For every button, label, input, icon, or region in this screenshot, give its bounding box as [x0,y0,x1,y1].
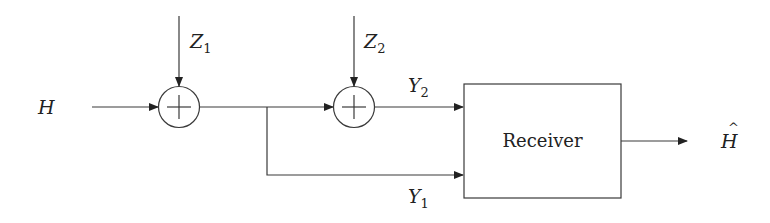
channel-diagram: H Z1 Z2 Y2 Y1 Receiver H ^ [0,0,770,223]
hat-accent: ^ [728,120,739,135]
y1-label: Y1 [408,185,429,211]
adder1-circle [159,87,200,128]
y1-branch-arrow [267,107,463,175]
y2-label: Y2 [408,74,429,100]
receiver-label: Receiver [502,130,583,151]
z2-label: Z2 [363,30,385,56]
input-label-h: H [37,96,55,118]
z1-label: Z1 [189,30,211,56]
adder2-circle [334,87,375,128]
